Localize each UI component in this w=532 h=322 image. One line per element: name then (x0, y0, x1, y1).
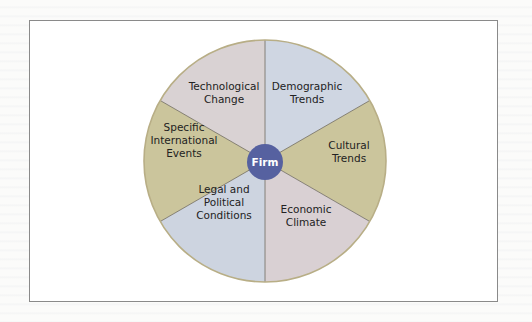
segment-label-line: Change (204, 93, 244, 105)
segment-label-line: Technological (188, 80, 260, 92)
segment-label-line: Demographic (272, 80, 343, 92)
segment-label-line: Political (204, 196, 244, 208)
segment-label-line: Trends (289, 93, 324, 105)
segment-label-line: Legal and (198, 183, 249, 195)
segment-label-line: Conditions (196, 209, 252, 221)
segment-label-cultural-trends: CulturalTrends (328, 139, 369, 164)
segment-label-line: Specific (164, 121, 205, 133)
segment-label-line: Trends (331, 152, 366, 164)
segment-label-legal-political-conditions: Legal andPoliticalConditions (196, 183, 252, 221)
segment-label-economic-climate: EconomicClimate (281, 203, 332, 228)
segment-label-line: International (150, 134, 217, 146)
firm-hub-label: Firm (252, 156, 279, 168)
segment-label-line: Economic (281, 203, 332, 215)
hub: Firm (247, 144, 283, 180)
environment-wheel-diagram: TechnologicalChangeDemographicTrendsCult… (0, 0, 532, 322)
segment-label-line: Cultural (328, 139, 369, 151)
segment-label-line: Events (166, 147, 202, 159)
segment-label-line: Climate (286, 216, 326, 228)
